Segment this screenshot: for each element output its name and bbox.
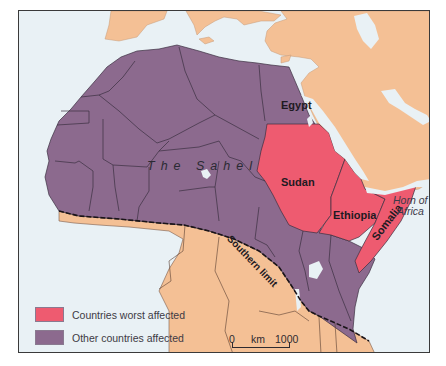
scale-bar: [232, 342, 290, 348]
legend-item-worst: Countries worst affected: [35, 307, 185, 322]
legend-swatch-worst: [35, 307, 64, 322]
legend-label-other: Other countries affected: [72, 332, 184, 344]
label-ethiopia: Ethiopia: [333, 209, 376, 221]
map-frame: Egypt Sudan Ethiopia Somalia The Sahel H…: [18, 10, 430, 353]
label-horn-of-africa: Horn of Africa: [393, 195, 427, 217]
horn-line-2: Africa: [393, 206, 427, 217]
map-canvas: [19, 11, 430, 353]
label-egypt: Egypt: [281, 99, 312, 111]
label-the-sahel: The Sahel: [147, 159, 258, 173]
label-sudan: Sudan: [281, 176, 315, 188]
legend-item-other: Other countries affected: [35, 330, 184, 345]
legend-swatch-other: [35, 330, 64, 345]
legend-label-worst: Countries worst affected: [72, 309, 185, 321]
